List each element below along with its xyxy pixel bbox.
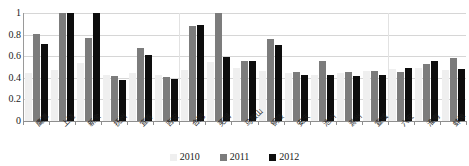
bar-2010 — [337, 73, 344, 121]
bar-2011 — [163, 77, 170, 121]
y-tick-label: 0.8 — [1, 30, 21, 40]
legend-item-2010[interactable]: 2010 — [170, 152, 200, 162]
bar-2011 — [241, 61, 248, 121]
bar-group — [388, 13, 414, 121]
legend-label: 2010 — [180, 152, 200, 162]
bar-2010 — [389, 69, 396, 121]
bar-group — [205, 13, 231, 121]
bar-2012 — [41, 44, 48, 121]
bar-group — [75, 13, 101, 121]
bar-group — [179, 13, 205, 121]
bar-group — [23, 13, 49, 121]
bar-group — [362, 13, 388, 121]
bar-2011 — [397, 72, 404, 121]
bar-group — [258, 13, 284, 121]
x-tick — [466, 121, 467, 125]
y-tick-label: 0.2 — [1, 94, 21, 104]
bar-2010 — [181, 70, 188, 121]
chart-legend: 201020112012 — [0, 150, 469, 164]
legend-label: 2012 — [279, 152, 299, 162]
bar-2011 — [189, 26, 196, 121]
bar-2011 — [111, 76, 118, 121]
y-tick-label: 0.4 — [1, 73, 21, 83]
bar-2010 — [77, 63, 84, 121]
bar-2010 — [155, 75, 162, 121]
bar-group — [127, 13, 153, 121]
bar-2012 — [145, 55, 152, 121]
bar-group — [284, 13, 310, 121]
bar-group — [232, 13, 258, 121]
bar-2010 — [233, 68, 240, 121]
bar-group — [414, 13, 440, 121]
bar-2010 — [51, 70, 58, 121]
bar-2011 — [319, 61, 326, 121]
bar-2010 — [25, 73, 32, 121]
bar-group — [101, 13, 127, 121]
legend-swatch-icon — [220, 154, 227, 161]
legend-label: 2011 — [230, 152, 250, 162]
bar-2011 — [371, 71, 378, 121]
bar-2012 — [275, 45, 282, 121]
bar-2010 — [442, 70, 449, 121]
bar-2012 — [223, 57, 230, 121]
bar-2012 — [197, 25, 204, 121]
bar-2011 — [423, 64, 430, 121]
y-tick-label: 0.6 — [1, 51, 21, 61]
bar-2011 — [33, 34, 40, 121]
bar-2010 — [363, 71, 370, 121]
bar-2010 — [103, 75, 110, 121]
y-tick-label: 1 — [1, 8, 21, 18]
bar-2011 — [267, 39, 274, 121]
bar-2011 — [85, 38, 92, 121]
legend-item-2011[interactable]: 2011 — [220, 152, 250, 162]
bar-2010 — [207, 62, 214, 121]
bar-2011 — [293, 72, 300, 121]
bar-group — [440, 13, 466, 121]
bar-2010 — [311, 75, 318, 121]
bar-2010 — [285, 73, 292, 121]
bar-group — [49, 13, 75, 121]
bar-group — [336, 13, 362, 121]
bar-2011 — [59, 13, 66, 121]
x-axis-category-labels: 鹰潭上饶新余抚州宜春吉安合肥芜湖马鞍山铜陵安庆池州滁州宣城六安淮南蚌埠 — [23, 123, 466, 151]
bar-2011 — [450, 58, 457, 121]
legend-item-2012[interactable]: 2012 — [269, 152, 299, 162]
bar-2012 — [93, 13, 100, 121]
bar-2011 — [345, 72, 352, 121]
legend-swatch-icon — [170, 154, 177, 161]
legend-swatch-icon — [269, 154, 276, 161]
bar-groups — [23, 13, 466, 121]
bar-group — [153, 13, 179, 121]
bar-2011 — [215, 13, 222, 121]
bar-2010 — [415, 68, 422, 121]
y-axis-tick-labels: 00.20.40.60.81 — [0, 0, 21, 166]
bar-chart: 00.20.40.60.81 鹰潭上饶新余抚州宜春吉安合肥芜湖马鞍山铜陵安庆池州… — [0, 0, 469, 166]
y-tick-label: 0 — [1, 116, 21, 126]
bar-2012 — [67, 13, 74, 121]
bar-2010 — [129, 73, 136, 121]
bar-group — [310, 13, 336, 121]
bar-2011 — [137, 48, 144, 121]
